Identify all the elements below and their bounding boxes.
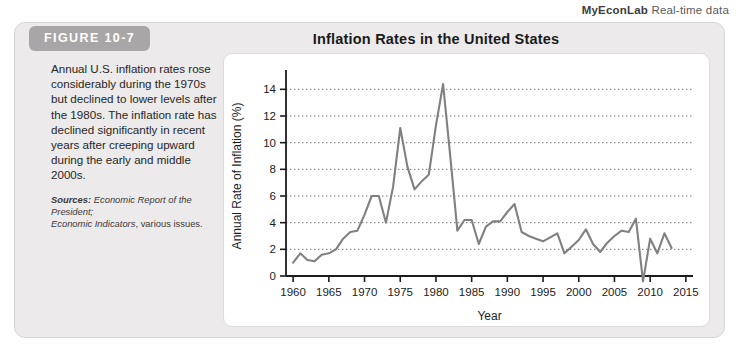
chart-title: Inflation Rates in the United States bbox=[211, 31, 661, 47]
svg-text:8: 8 bbox=[270, 163, 276, 175]
sources-line-2: Economic Indicators bbox=[51, 218, 135, 229]
svg-text:1990: 1990 bbox=[495, 286, 521, 298]
sources-label: Sources: bbox=[51, 194, 91, 205]
plot-panel: 02468101214 1960196519701975198019851990… bbox=[223, 53, 710, 327]
svg-text:12: 12 bbox=[263, 110, 276, 122]
svg-text:2015: 2015 bbox=[673, 286, 699, 298]
svg-text:2: 2 bbox=[270, 243, 276, 255]
svg-text:10: 10 bbox=[263, 137, 276, 149]
figure-page: MyEconLab Real-time data FIGURE 10-7 Inf… bbox=[0, 0, 739, 355]
inflation-data-line bbox=[293, 84, 671, 281]
sources-suffix: , various issues. bbox=[135, 218, 202, 229]
svg-text:1985: 1985 bbox=[459, 286, 485, 298]
x-axis-title: Year bbox=[477, 309, 501, 323]
svg-text:4: 4 bbox=[270, 217, 277, 229]
svg-text:1970: 1970 bbox=[352, 286, 378, 298]
svg-text:1965: 1965 bbox=[316, 286, 342, 298]
figure-card: FIGURE 10-7 Inflation Rates in the Unite… bbox=[14, 22, 725, 338]
svg-text:6: 6 bbox=[270, 190, 276, 202]
figure-sources: Sources: Economic Report of the Presiden… bbox=[51, 194, 217, 231]
x-axis-ticks: 1960196519701975198019851990199520002005… bbox=[280, 276, 698, 298]
y-axis-ticks: 02468101214 bbox=[263, 83, 286, 282]
svg-text:0: 0 bbox=[270, 270, 276, 282]
svg-text:1975: 1975 bbox=[387, 286, 413, 298]
y-axis-title: Annual Rate of Inflation (%) bbox=[230, 103, 244, 250]
svg-text:2010: 2010 bbox=[637, 286, 663, 298]
caption-column: Annual U.S. inflation rates rose conside… bbox=[51, 61, 217, 231]
svg-text:2005: 2005 bbox=[602, 286, 628, 298]
figure-number-tab: FIGURE 10-7 bbox=[29, 26, 150, 51]
inflation-line-chart: 02468101214 1960196519701975198019851990… bbox=[224, 54, 711, 328]
svg-text:1995: 1995 bbox=[530, 286, 556, 298]
myeconlab-header: MyEconLab Real-time data bbox=[582, 4, 729, 16]
svg-text:1980: 1980 bbox=[423, 286, 449, 298]
svg-text:14: 14 bbox=[263, 83, 276, 95]
myeconlab-brand: MyEconLab bbox=[582, 4, 648, 16]
myeconlab-tagline: Real-time data bbox=[651, 4, 729, 16]
svg-text:1960: 1960 bbox=[280, 286, 306, 298]
svg-text:2000: 2000 bbox=[566, 286, 592, 298]
figure-caption: Annual U.S. inflation rates rose conside… bbox=[51, 61, 217, 183]
